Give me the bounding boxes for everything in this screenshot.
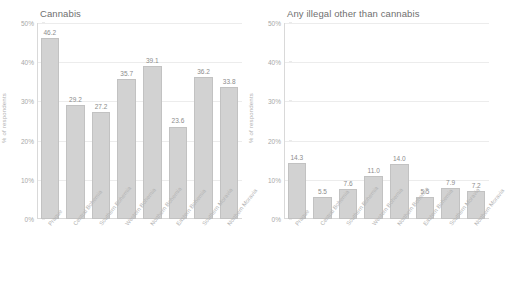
chart-title: Any illegal other than cannabis	[287, 8, 420, 19]
y-axis-tick-label: 0%	[8, 216, 34, 223]
bar-series: 46.229.227.235.739.123.636.233.8	[37, 23, 242, 219]
y-axis-tick-label: 10%	[255, 176, 281, 183]
y-axis-ticks: 0%10%20%30%40%50%	[8, 0, 34, 287]
bar-value-label: 36.2	[194, 68, 212, 75]
y-axis-tick-label: 0%	[255, 216, 281, 223]
y-axis-tick-label: 20%	[255, 137, 281, 144]
y-axis-tick-label: 10%	[8, 176, 34, 183]
bar-value-label: 33.8	[220, 78, 238, 85]
y-axis-tick-label: 50%	[255, 20, 281, 27]
bar[interactable]	[41, 38, 59, 219]
bar-value-label: 29.2	[66, 96, 84, 103]
y-axis-title: % of respondents	[248, 93, 254, 143]
plot-area: 14.35.57.611.014.05.57.97.2	[284, 23, 489, 219]
bar-value-label: 14.0	[390, 155, 408, 162]
y-axis-tick-label: 30%	[8, 98, 34, 105]
chart-panel-cannabis: Cannabis % of respondents 0%10%20%30%40%…	[0, 0, 247, 287]
bar-value-label: 27.2	[92, 103, 110, 110]
x-axis-labels: PragueCentral BohemiaSouthern BohemiaWes…	[284, 221, 489, 287]
bar-value-label: 35.7	[117, 70, 135, 77]
bar-series: 14.35.57.611.014.05.57.97.2	[284, 23, 489, 219]
y-axis-tick-label: 40%	[255, 59, 281, 66]
bar-value-label: 14.3	[288, 154, 306, 161]
y-axis-tick-label: 50%	[8, 20, 34, 27]
bar[interactable]	[66, 105, 84, 219]
y-axis-ticks: 0%10%20%30%40%50%	[255, 0, 281, 287]
y-axis-tick-label: 30%	[255, 98, 281, 105]
bar-value-label: 39.1	[143, 57, 161, 64]
bar-value-label: 46.2	[41, 29, 59, 36]
y-axis-tick-label: 40%	[8, 59, 34, 66]
x-axis-labels: PragueCentral BohemiaSouthern BohemiaWes…	[37, 221, 242, 287]
bar-value-label: 7.6	[339, 180, 357, 187]
y-axis-tick-label: 20%	[8, 137, 34, 144]
y-axis-title: % of respondents	[1, 93, 7, 143]
bar-value-label: 11.0	[364, 167, 382, 174]
bar[interactable]	[169, 127, 187, 220]
chart-panel-any-illegal-other-than-cannabis: Any illegal other than cannabis % of res…	[247, 0, 494, 287]
chart-title: Cannabis	[40, 8, 81, 19]
bar-value-label: 5.5	[313, 188, 331, 195]
plot-area: 46.229.227.235.739.123.636.233.8	[37, 23, 242, 219]
bar-value-label: 7.9	[441, 179, 459, 186]
bar-value-label: 23.6	[169, 117, 187, 124]
